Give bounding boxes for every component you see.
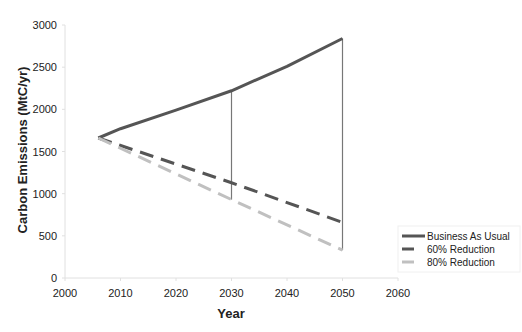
- x-tick-label: 2010: [108, 287, 132, 299]
- x-tick-label: 2050: [330, 287, 354, 299]
- legend-label: Business As Usual: [427, 231, 510, 242]
- legend-label: 80% Reduction: [427, 257, 495, 268]
- vertical-markers: [232, 38, 343, 250]
- x-tick-label: 2030: [219, 287, 243, 299]
- y-tick-label: 1000: [33, 188, 57, 200]
- x-tick-label: 2000: [53, 287, 77, 299]
- y-axis-ticks: 050010001500200025003000: [33, 19, 65, 284]
- y-tick-label: 2000: [33, 103, 57, 115]
- x-tick-label: 2040: [275, 287, 299, 299]
- y-tick-label: 0: [51, 272, 57, 284]
- y-tick-label: 500: [39, 230, 57, 242]
- legend: Business As Usual60% Reduction80% Reduct…: [398, 226, 520, 272]
- x-axis-ticks: 2000201020202030204020502060: [53, 278, 410, 299]
- series-lines: [98, 38, 342, 250]
- emissions-chart: 050010001500200025003000 200020102020203…: [0, 0, 522, 332]
- x-axis-title: Year: [217, 306, 244, 321]
- x-tick-label: 2020: [164, 287, 188, 299]
- series-line-2: [98, 138, 342, 250]
- series-line-1: [98, 138, 342, 222]
- x-tick-label: 2060: [386, 287, 410, 299]
- y-tick-label: 2500: [33, 61, 57, 73]
- legend-label: 60% Reduction: [427, 244, 495, 255]
- y-tick-label: 1500: [33, 146, 57, 158]
- y-axis-title: Carbon Emissions (MtC/yr): [15, 67, 30, 234]
- y-tick-label: 3000: [33, 19, 57, 31]
- series-line-0: [98, 38, 342, 138]
